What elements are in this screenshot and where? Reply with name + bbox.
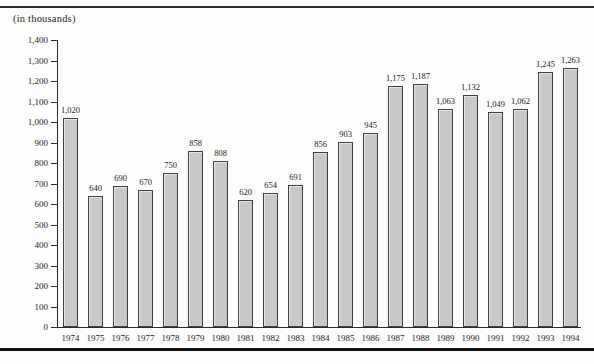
y-tick-label: 400 [0,240,48,250]
bar-chart-plot-area: 01002003004005006007008009001,0001,1001,… [0,0,594,364]
bar [113,186,128,327]
bar-value-label: 1,187 [399,71,443,81]
y-tick-mark [51,327,57,328]
bar [338,142,353,327]
y-tick-label: 1,200 [0,76,48,86]
bar-value-label: 1,132 [449,82,493,92]
bar [313,152,328,327]
scanned-page: (in thousands) 0100200300400500600700800… [0,0,594,364]
y-tick-label: 200 [0,281,48,291]
y-tick-mark [51,102,57,103]
y-tick-label: 1,300 [0,56,48,66]
bar [238,200,253,327]
bar-value-label: 1,263 [549,55,593,65]
bar-value-label: 856 [299,139,343,149]
y-tick-label: 600 [0,199,48,209]
y-axis [57,40,58,328]
y-tick-label: 1,400 [0,35,48,45]
bar-value-label: 640 [74,183,118,193]
bar-value-label: 808 [199,148,243,158]
y-tick-mark [51,225,57,226]
bar [488,112,503,327]
y-tick-mark [51,245,57,246]
bar [163,173,178,327]
bar [63,118,78,327]
bar [88,196,103,327]
bar-value-label: 1,020 [49,105,93,115]
bar-value-label: 945 [349,120,393,130]
y-tick-mark [51,204,57,205]
x-axis [57,327,581,328]
y-tick-mark [51,163,57,164]
y-tick-mark [51,266,57,267]
bar-value-label: 903 [324,129,368,139]
y-tick-label: 700 [0,179,48,189]
bar [463,95,478,327]
y-tick-label: 100 [0,302,48,312]
bottom-rule [0,348,594,351]
bar-value-label: 1,063 [424,96,468,106]
y-tick-mark [51,61,57,62]
y-tick-mark [51,143,57,144]
bar-value-label: 1,062 [499,96,543,106]
bar [438,109,453,327]
y-tick-label: 900 [0,138,48,148]
bar [538,72,553,327]
y-tick-label: 1,100 [0,97,48,107]
y-tick-mark [51,81,57,82]
y-tick-mark [51,184,57,185]
y-tick-mark [51,286,57,287]
bar-value-label: 691 [274,172,318,182]
y-tick-mark [51,122,57,123]
x-tick-label: 1994 [549,333,593,343]
y-tick-label: 500 [0,220,48,230]
bar [288,185,303,327]
bar [363,133,378,327]
bar-value-label: 858 [174,138,218,148]
y-tick-label: 800 [0,158,48,168]
y-tick-label: 0 [0,322,48,332]
y-tick-mark [51,307,57,308]
bar [188,151,203,327]
bar [138,190,153,327]
bar [388,86,403,327]
y-tick-label: 300 [0,261,48,271]
bar [513,109,528,327]
y-tick-label: 1,000 [0,117,48,127]
bar-value-label: 670 [124,177,168,187]
bar [563,68,578,327]
y-tick-mark [51,40,57,41]
bar [413,84,428,327]
bar-value-label: 750 [149,160,193,170]
bar [263,193,278,327]
